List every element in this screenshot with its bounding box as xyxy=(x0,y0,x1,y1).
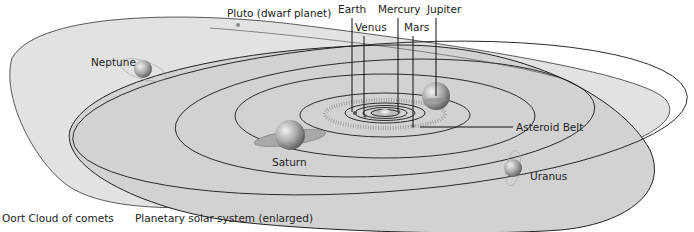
sun xyxy=(379,109,391,115)
saturn xyxy=(275,120,305,150)
jupiter-label: Jupiter xyxy=(426,3,462,15)
earth xyxy=(353,111,357,115)
jupiter-band xyxy=(424,98,448,102)
solar-system-diagram: Pluto (dwarf planet) Earth Mercury Jupit… xyxy=(0,0,694,232)
oort-cloud-caption: Oort Cloud of comets xyxy=(2,212,114,224)
neptune-label: Neptune xyxy=(91,56,136,68)
mercury-label: Mercury xyxy=(378,3,421,15)
venus-label: Venus xyxy=(355,21,387,33)
uranus-label: Uranus xyxy=(530,170,567,182)
asteroid-belt-label: Asteroid Belt xyxy=(516,121,583,133)
mercury xyxy=(398,111,401,114)
planetary-caption: Planetary solar system (enlarged) xyxy=(135,212,313,224)
earth-label: Earth xyxy=(338,3,366,15)
neptune xyxy=(134,60,152,78)
pluto-label: Pluto (dwarf planet) xyxy=(227,7,331,19)
saturn-label: Saturn xyxy=(272,156,307,168)
mars-label: Mars xyxy=(404,21,429,33)
uranus xyxy=(504,159,522,177)
pluto xyxy=(236,23,240,27)
